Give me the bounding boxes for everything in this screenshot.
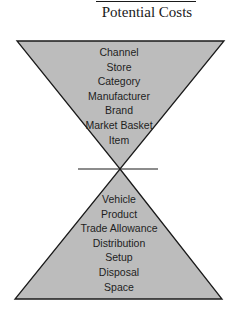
bottom-triangle-labels: Vehicle Product Trade Allowance Distribu… <box>0 192 238 294</box>
bottom-item-trade-allowance: Trade Allowance <box>0 221 238 236</box>
bottom-item-distribution: Distribution <box>0 236 238 251</box>
bottom-item-disposal: Disposal <box>0 265 238 280</box>
bottom-item-vehicle: Vehicle <box>0 192 238 207</box>
top-item-channel: Channel <box>0 45 238 60</box>
top-item-store: Store <box>0 60 238 75</box>
bottom-item-setup: Setup <box>0 250 238 265</box>
top-item-manufacturer: Manufacturer <box>0 89 238 104</box>
top-item-item: Item <box>0 133 238 148</box>
top-item-category: Category <box>0 74 238 89</box>
top-item-brand: Brand <box>0 103 238 118</box>
bottom-item-product: Product <box>0 207 238 222</box>
top-item-market-basket: Market Basket <box>0 118 238 133</box>
top-triangle-labels: Channel Store Category Manufacturer Bran… <box>0 45 238 147</box>
bottom-item-space: Space <box>0 280 238 295</box>
